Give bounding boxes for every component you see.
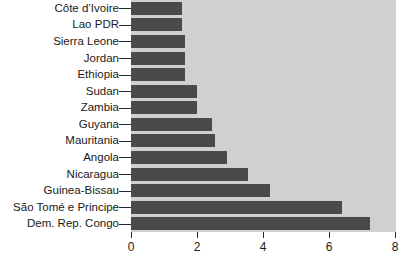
- y-axis-label: Mauritania: [65, 134, 119, 147]
- bar: [131, 151, 227, 164]
- bar-fill: [131, 217, 370, 230]
- x-axis-tick-label: 2: [182, 240, 212, 254]
- bar-fill: [131, 151, 227, 164]
- y-axis-label: Ethiopia: [77, 68, 119, 81]
- bar-fill: [131, 101, 197, 114]
- y-axis-tick: [119, 75, 131, 76]
- bar: [131, 52, 185, 65]
- y-axis-tick: [119, 25, 131, 26]
- x-axis-tick-label: 8: [380, 240, 410, 254]
- x-axis-tick: [263, 232, 264, 238]
- plot-area: [131, 0, 396, 232]
- bar: [131, 134, 215, 147]
- bar-fill: [131, 201, 342, 214]
- bar: [131, 35, 185, 48]
- x-axis-tick: [395, 232, 396, 238]
- y-axis-tick: [119, 141, 131, 142]
- bar: [131, 2, 182, 15]
- bar: [131, 201, 342, 214]
- x-axis-tick-label: 6: [314, 240, 344, 254]
- y-axis-tick: [119, 108, 131, 109]
- y-axis-tick: [119, 8, 131, 9]
- x-axis: 02468: [0, 232, 416, 268]
- y-axis-label: Jordan: [84, 52, 119, 65]
- y-axis-label: Guyana: [79, 118, 119, 131]
- x-axis-tick-label: 0: [116, 240, 146, 254]
- bar: [131, 168, 248, 181]
- bar: [131, 184, 270, 197]
- bar-fill: [131, 168, 248, 181]
- bar: [131, 101, 197, 114]
- bar: [131, 68, 185, 81]
- bar: [131, 85, 197, 98]
- bar-fill: [131, 52, 185, 65]
- y-axis-label: São Tomé e Principe: [13, 201, 119, 214]
- y-axis-label: Dem. Rep. Congo: [27, 217, 119, 230]
- y-axis-label: Nicaragua: [67, 168, 119, 181]
- y-axis-tick: [119, 124, 131, 125]
- bar-fill: [131, 184, 270, 197]
- x-axis-tick-label: 4: [248, 240, 278, 254]
- bar-fill: [131, 35, 185, 48]
- bar: [131, 217, 370, 230]
- y-axis-label: Sierra Leone: [53, 35, 119, 48]
- bar-fill: [131, 68, 185, 81]
- y-axis-label: Guinea-Bissau: [44, 184, 119, 197]
- bar-fill: [131, 118, 212, 131]
- y-axis-tick: [119, 191, 131, 192]
- y-axis-tick: [119, 91, 131, 92]
- y-axis-tick: [119, 207, 131, 208]
- y-axis-category-labels: Côte d’IvoireLao PDRSierra LeoneJordanEt…: [0, 0, 119, 232]
- y-axis-label: Zambia: [81, 101, 119, 114]
- bar-fill: [131, 18, 182, 31]
- bar: [131, 18, 182, 31]
- y-axis-tick: [119, 58, 131, 59]
- y-axis-label: Angola: [83, 151, 119, 164]
- bar: [131, 118, 212, 131]
- y-axis-tick: [119, 224, 131, 225]
- y-axis-tick: [119, 174, 131, 175]
- bar-fill: [131, 134, 215, 147]
- bar-fill: [131, 2, 182, 15]
- horizontal-bar-chart: Côte d’IvoireLao PDRSierra LeoneJordanEt…: [0, 0, 416, 268]
- y-axis-tick: [119, 157, 131, 158]
- y-axis-label: Côte d’Ivoire: [54, 2, 119, 15]
- x-axis-tick: [131, 232, 132, 238]
- x-axis-tick: [197, 232, 198, 238]
- x-axis-tick: [329, 232, 330, 238]
- y-axis-label: Lao PDR: [72, 18, 119, 31]
- y-axis-tick: [119, 41, 131, 42]
- bar-fill: [131, 85, 197, 98]
- y-axis-label: Sudan: [86, 85, 119, 98]
